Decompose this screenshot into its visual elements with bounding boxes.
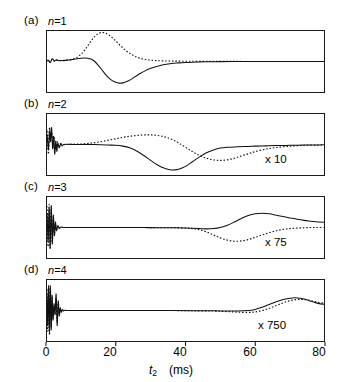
panel-annotation-b: n=2 — [48, 98, 67, 110]
panel-annotation-c: n=3 — [48, 181, 67, 193]
plot-panel-b — [46, 113, 325, 176]
figure-root: (a) n=1 (b) n=2 x 10 (c) n=3 x 75 (d) n=… — [0, 0, 347, 382]
panel-label-a: (a) — [24, 14, 39, 26]
panel-a-n-value: 1 — [61, 15, 67, 27]
xtick-0: 0 — [36, 345, 56, 359]
plot-panel-a — [46, 30, 325, 93]
x-axis-units: (ms) — [169, 363, 193, 377]
xtick-20: 20 — [100, 345, 120, 359]
multiplier-label-b: x 10 — [265, 153, 287, 165]
multiplier-label-d: x 750 — [258, 319, 286, 331]
xtick-40: 40 — [170, 345, 190, 359]
panel-label-d: (d) — [24, 263, 39, 275]
plot-panel-d — [46, 279, 325, 342]
panel-c-n-value: 3 — [61, 181, 67, 193]
multiplier-label-c: x 75 — [265, 236, 287, 248]
panel-label-c: (c) — [24, 180, 38, 192]
panel-label-b: (b) — [24, 97, 39, 109]
x-axis-title: t2(ms) — [149, 363, 193, 378]
xtick-60: 60 — [240, 345, 260, 359]
panel-b-n-value: 2 — [61, 98, 67, 110]
panel-annotation-d: n=4 — [48, 264, 67, 276]
panel-annotation-a: n=1 — [48, 15, 67, 27]
panel-d-n-value: 4 — [61, 264, 67, 276]
xtick-80: 80 — [309, 345, 329, 359]
plot-panel-c — [46, 196, 325, 259]
x-axis-subscript: 2 — [152, 368, 157, 378]
